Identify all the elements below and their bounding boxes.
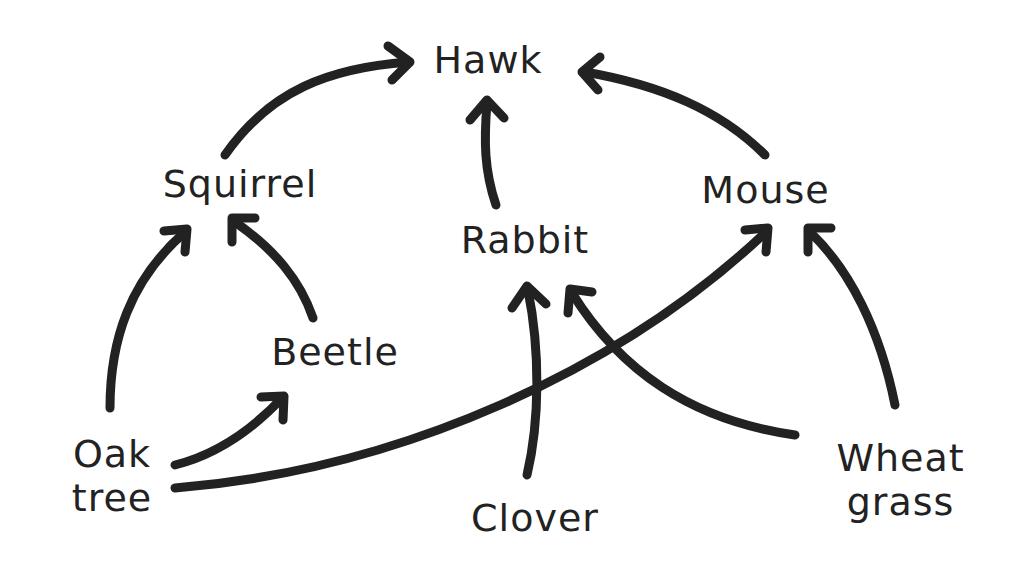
arrow-clover-to-rabbit xyxy=(512,286,546,475)
node-rabbit: Rabbit xyxy=(440,218,610,262)
node-hawk: Hawk xyxy=(418,38,558,82)
arrow-wheat-grass-to-mouse xyxy=(808,228,895,405)
arrow-wheat-grass-to-rabbit xyxy=(568,289,795,435)
node-clover-label: Clover xyxy=(450,496,620,540)
arrow-mouse-to-hawk xyxy=(582,57,765,155)
arrow-oak-tree-to-squirrel xyxy=(110,229,187,408)
node-wheat-grass-line2: grass xyxy=(818,480,983,524)
node-oak-tree-line1: Oak xyxy=(52,432,172,476)
node-wheat-grass: Wheat grass xyxy=(818,436,983,524)
arrow-squirrel-to-hawk xyxy=(225,46,410,155)
node-rabbit-label: Rabbit xyxy=(440,218,610,262)
node-hawk-label: Hawk xyxy=(418,38,558,82)
node-mouse: Mouse xyxy=(683,168,848,212)
node-oak-tree-line2: tree xyxy=(52,476,172,520)
node-oak-tree: Oak tree xyxy=(52,432,172,520)
node-clover: Clover xyxy=(450,496,620,540)
arrow-oak-tree-to-beetle xyxy=(175,396,284,465)
node-mouse-label: Mouse xyxy=(683,168,848,212)
arrow-rabbit-to-hawk xyxy=(470,100,504,205)
arrow-beetle-to-squirrel xyxy=(232,218,313,318)
node-squirrel-label: Squirrel xyxy=(135,162,345,206)
food-web-diagram: Hawk Squirrel Rabbit Mouse Beetle Oak tr… xyxy=(0,0,1027,562)
node-beetle-label: Beetle xyxy=(250,330,420,374)
node-beetle: Beetle xyxy=(250,330,420,374)
node-wheat-grass-line1: Wheat xyxy=(818,436,983,480)
node-squirrel: Squirrel xyxy=(135,162,345,206)
